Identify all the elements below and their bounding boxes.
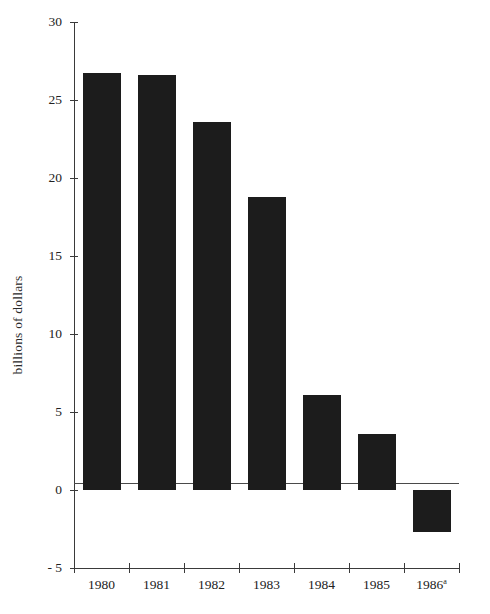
y-axis-tick [70,22,78,23]
y-axis-tick-label-text: 10 [16,327,62,341]
y-axis-tick-label: 0 [16,483,62,497]
x-axis-tick [294,563,295,573]
bar [248,197,286,490]
y-axis-tick-label: 25 [16,93,62,107]
y-axis-tick [70,178,78,179]
footnote-marker: a [443,577,447,586]
x-axis-line [74,568,459,569]
y-axis-line [74,22,75,568]
y-axis-tick-label: - 5 [16,561,62,575]
y-axis-tick-label-text: 5 [16,405,62,419]
y-axis-tick-label-text: 25 [16,93,62,107]
y-axis-tick-label-text: 15 [16,249,62,263]
bar [138,75,176,490]
x-axis-tick [129,563,130,573]
y-axis-tick [70,490,78,491]
y-axis-tick-label: 10 [16,327,62,341]
x-axis-tick [404,563,405,573]
x-axis-tick [184,563,185,573]
y-axis-tick-label-text: - 5 [16,561,62,575]
x-axis-tick-label: 1986a [397,578,467,592]
bar [83,73,121,490]
x-axis-tick [239,563,240,573]
y-axis-tick-label-text: 0 [16,483,62,497]
bar [303,395,341,490]
y-axis-tick-label-text: 30 [16,15,62,29]
y-axis-tick-label: 15 [16,249,62,263]
y-axis-tick-label: 20 [16,171,62,185]
y-axis-tick [70,256,78,257]
y-axis-tick-label-text: 20 [16,171,62,185]
plot-area: 302520151050- 5 198019811982198319841985… [0,0,490,614]
y-axis-tick-label: 30 [16,15,62,29]
y-axis-tick-label: 5 [16,405,62,419]
x-axis-tick [74,563,75,573]
y-axis-tick [70,412,78,413]
x-axis-tick [459,563,460,573]
x-axis-tick [349,563,350,573]
bar [358,434,396,490]
bar-chart: billions of dollars 302520151050- 5 1980… [0,0,490,614]
y-axis-tick [70,100,78,101]
bar [413,490,451,532]
bar [193,122,231,490]
y-axis-tick [70,334,78,335]
